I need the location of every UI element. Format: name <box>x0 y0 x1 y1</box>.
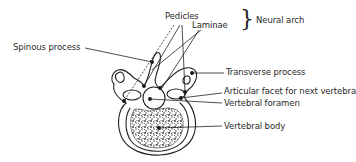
leader-laminae-2 <box>162 30 199 88</box>
label-laminae: Laminae <box>192 20 228 30</box>
leader-articular <box>181 93 222 98</box>
label-vertebral-body: Vertebral body <box>224 121 285 131</box>
leader-laminae-1 <box>152 30 201 70</box>
label-transverse-process: Transverse process <box>226 67 305 77</box>
label-articular-facet: Articular facet for next vertebra <box>224 86 356 96</box>
label-spinous-process: Spinous process <box>13 42 80 52</box>
leader-dashed <box>124 25 174 101</box>
label-neural-arch: Neural arch <box>256 15 304 25</box>
leader-pedicles-1 <box>144 25 180 86</box>
neural-arch-brace: } <box>240 8 254 30</box>
vertebral-foramen <box>143 87 165 109</box>
vertebral-body <box>131 108 184 148</box>
leader-spinous <box>85 48 152 62</box>
label-vertebral-foramen: Vertebral foramen <box>224 98 300 108</box>
left-facet <box>115 72 124 82</box>
